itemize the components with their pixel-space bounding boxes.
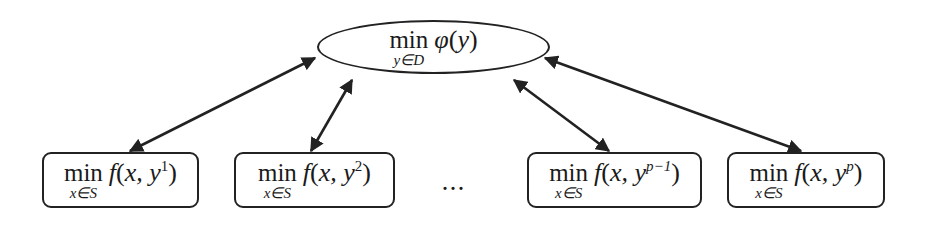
subproblem-expression: min x∈S f(x, yp) [749, 160, 862, 201]
edge-master-subproblem-3 [514, 80, 609, 151]
subproblem-expression: min x∈S f(x, y1) [64, 160, 177, 201]
objective-function: f(x, yp) [794, 160, 862, 186]
objective-function: φ(y) [434, 27, 477, 53]
min-operator: min x∈S [64, 160, 103, 201]
master-problem-node: min y∈D φ(y) [317, 20, 550, 74]
subproblem-expression: min x∈S f(x, yp−1) [549, 160, 680, 201]
subproblem-node-1: min x∈S f(x, y1) [42, 152, 199, 208]
subproblem-expression: min x∈S f(x, y2) [258, 160, 371, 201]
objective-function: f(x, yp−1) [594, 160, 680, 186]
objective-function: f(x, y1) [109, 160, 177, 186]
objective-function: f(x, y2) [303, 160, 371, 186]
min-operator: min x∈S [749, 160, 788, 201]
subproblem-node-2: min x∈S f(x, y2) [234, 152, 395, 208]
edge-master-subproblem-2 [311, 80, 352, 151]
min-operator: min x∈S [549, 160, 588, 201]
edge-master-subproblem-1 [130, 58, 315, 151]
ellipsis: … [441, 168, 468, 196]
subproblem-node-3: min x∈S f(x, yp−1) [527, 152, 702, 208]
min-operator: min y∈D [389, 27, 428, 68]
master-problem-expression: min y∈D φ(y) [389, 27, 477, 68]
edge-master-subproblem-4 [545, 58, 801, 151]
min-operator: min x∈S [258, 160, 297, 201]
subproblem-node-4: min x∈S f(x, yp) [727, 152, 885, 208]
